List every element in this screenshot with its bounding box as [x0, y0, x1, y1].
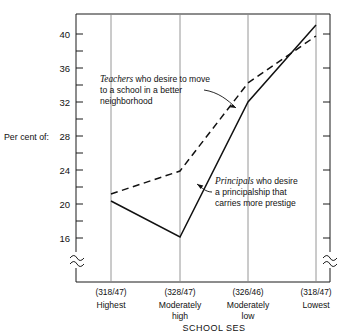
category-label-moderately-low-1: Moderately	[227, 300, 270, 310]
category-count-moderately-high: (328/47)	[164, 287, 195, 297]
teachers-annotation: Teachers who desire to move to a school …	[100, 74, 236, 108]
principals-annotation-line2: a principalship that	[215, 187, 287, 197]
category-gridlines	[111, 14, 316, 282]
teachers-annotation-line3: neighborhood	[100, 96, 153, 106]
principals-emphasis: Principals	[214, 176, 254, 186]
plot-frame	[70, 14, 337, 282]
category-label-moderately-low-2: low	[242, 311, 256, 321]
teachers-emphasis: Teachers	[100, 74, 134, 84]
x-axis-title: SCHOOL SES	[182, 323, 245, 333]
y-tick-label-36: 36	[59, 63, 70, 74]
y-axis-title: Per cent of:	[4, 132, 49, 142]
category-count-moderately-low: (326/46)	[232, 287, 263, 297]
category-label-highest: Highest	[96, 300, 126, 310]
category-count-highest: (318/47)	[95, 287, 126, 297]
y-tick-label-20: 20	[59, 199, 70, 210]
y-tick-label-40: 40	[59, 29, 70, 40]
category-label-moderately-high-2: high	[172, 311, 188, 321]
teachers-line1-rest: who desire to move	[133, 74, 210, 84]
principals-annotation: Principals who desire a principalship th…	[197, 176, 298, 208]
chart-figure: 40 36 32 28 24 20 16 Per cent of: Teache…	[0, 0, 357, 333]
x-axis-categories: (318/47) Highest (328/47) Moderately hig…	[95, 287, 331, 321]
teachers-annotation-line2: to a school in a better	[100, 85, 182, 95]
y-tick-label-28: 28	[59, 131, 70, 142]
ses-line-chart: 40 36 32 28 24 20 16 Per cent of: Teache…	[0, 0, 357, 333]
y-axis-tick-labels: 40 36 32 28 24 20 16	[59, 29, 70, 244]
category-label-lowest: Lowest	[302, 300, 330, 310]
category-count-lowest: (318/47)	[300, 287, 331, 297]
principals-annotation-line3: carries more prestige	[215, 198, 296, 208]
y-tick-label-24: 24	[59, 165, 70, 176]
y-tick-label-16: 16	[59, 233, 70, 244]
principals-annotation-line1: Principals who desire	[214, 176, 298, 186]
principals-line1-rest: who desire	[254, 176, 298, 186]
category-label-moderately-high-1: Moderately	[159, 300, 202, 310]
teachers-annotation-line1: Teachers who desire to move	[100, 74, 210, 84]
y-tick-label-32: 32	[59, 97, 70, 108]
